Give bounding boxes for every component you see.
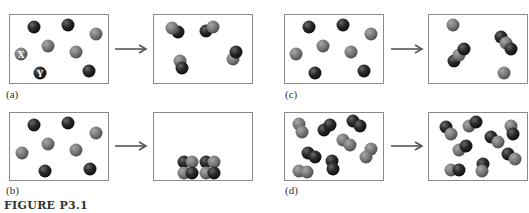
atom-x-labeled: X: [15, 48, 28, 61]
panel-a-after-atoms: [154, 15, 254, 85]
panel-c-label: (c): [285, 88, 297, 100]
panel-a-before-box: X Y: [9, 14, 109, 84]
cropped-text-line: [0, 0, 529, 5]
panel-b-after-box: [153, 112, 253, 181]
svg-text:Y: Y: [36, 68, 44, 79]
svg-text:X: X: [17, 49, 25, 60]
panel-d-before-molecules: [285, 113, 385, 182]
panel-a-before-atoms: X Y: [10, 15, 110, 85]
panel-c-before-box: [284, 14, 384, 84]
reaction-arrow-icon: [114, 44, 148, 54]
reaction-arrow-icon: [390, 141, 424, 151]
panel-c-after-atoms: [429, 15, 529, 85]
panel-a-label: (a): [6, 88, 18, 100]
panel-c-after-box: [428, 14, 528, 84]
panel-d-label: (d): [285, 184, 298, 196]
panel-b-label: (b): [6, 184, 19, 196]
panel-d-after-box: [428, 112, 528, 181]
reaction-arrow-icon: [114, 141, 148, 151]
panel-a-after-box: [153, 14, 253, 84]
panel-d-before-box: [284, 112, 384, 181]
panel-c-before-atoms: [285, 15, 385, 85]
atom-y-labeled: Y: [34, 67, 47, 80]
figure-caption: FIGURE P3.1: [4, 199, 88, 212]
panel-b-after-lattice: [154, 113, 254, 182]
reaction-arrow-icon: [390, 44, 424, 54]
panel-b-before-box: [9, 112, 109, 181]
panel-d-after-molecules: [429, 113, 529, 182]
panel-b-before-atoms: [10, 113, 110, 182]
